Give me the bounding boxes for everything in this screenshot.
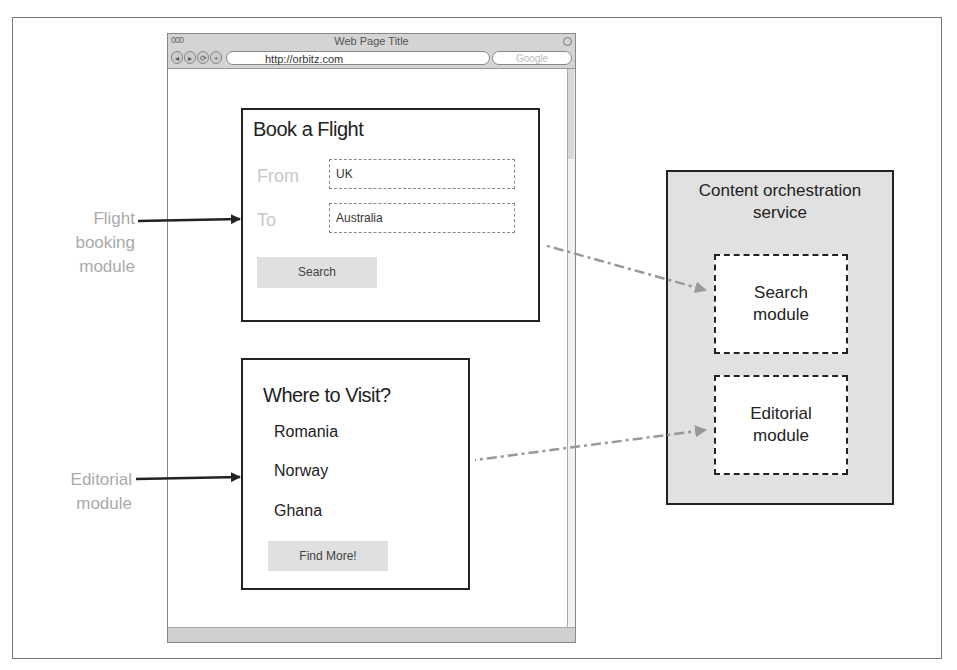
- editorial-pointer-arrow: [136, 477, 240, 479]
- flight-pointer-arrow: [138, 219, 240, 221]
- editorial-dependency-arrow: [475, 430, 705, 460]
- search-dependency-arrow: [544, 245, 705, 290]
- arrows-layer: [0, 0, 957, 670]
